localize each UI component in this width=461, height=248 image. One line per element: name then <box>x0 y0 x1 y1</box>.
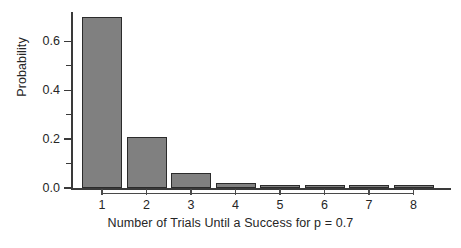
x-axis-tick-rail <box>102 193 414 194</box>
bar <box>127 137 167 188</box>
x-axis-tick-label: 6 <box>310 198 340 212</box>
x-axis-tick-label: 4 <box>221 198 251 212</box>
x-axis-tick-label: 7 <box>354 198 384 212</box>
x-axis-line <box>71 188 451 190</box>
x-axis-tick <box>413 189 414 195</box>
y-axis-tick: 0.4 <box>64 90 71 91</box>
y-axis-tick-label: 0.2 <box>43 132 60 146</box>
y-axis-minor-tick <box>66 65 71 66</box>
x-axis-title: Number of Trials Until a Success for p =… <box>0 216 461 230</box>
x-axis-tick <box>235 189 236 195</box>
y-axis-line <box>71 12 73 189</box>
x-axis-tick <box>279 189 280 195</box>
x-axis-tick-label: 5 <box>265 198 295 212</box>
x-axis-tick <box>190 189 191 195</box>
y-axis-tick-label: 0.6 <box>43 34 60 48</box>
bar <box>82 17 122 188</box>
y-axis-tick: 0.6 <box>64 41 71 42</box>
y-axis-title: Probability <box>15 0 29 137</box>
x-axis-tick-label: 2 <box>132 198 162 212</box>
x-axis-tick-label: 1 <box>87 198 117 212</box>
y-axis-tick-label: 0.0 <box>43 181 60 195</box>
x-axis-tick-label: 8 <box>399 198 429 212</box>
y-axis-tick: 0.2 <box>64 138 71 139</box>
x-axis-tick <box>146 189 147 195</box>
geometric-distribution-bar-chart: Probability 0.00.20.40.6 12345678 Number… <box>0 0 461 248</box>
x-axis-tick <box>101 189 102 195</box>
y-axis-minor-tick <box>66 114 71 115</box>
y-axis-minor-tick <box>66 163 71 164</box>
x-axis-tick <box>324 189 325 195</box>
bar <box>171 173 211 188</box>
x-axis-tick <box>368 189 369 195</box>
y-axis-tick: 0.0 <box>64 187 71 188</box>
y-axis-tick-label: 0.4 <box>43 83 60 97</box>
x-axis-tick-label: 3 <box>176 198 206 212</box>
